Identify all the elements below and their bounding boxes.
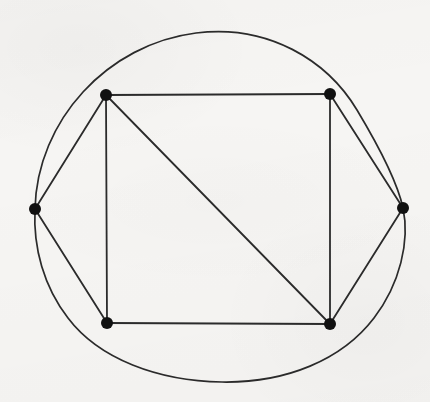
vertex-left (29, 203, 41, 215)
vertex-top-left (100, 89, 112, 101)
graph-figure (0, 0, 430, 402)
vertex-top-right (324, 88, 336, 100)
edge-diagonal-top-left-to-bottom-right (106, 95, 330, 324)
edge-top-right-to-right (330, 94, 403, 208)
edge-right-to-bottom-right (330, 208, 403, 324)
edge-bottom-left-to-top-left (106, 95, 107, 323)
vertex-bottom-right (324, 318, 336, 330)
vertex-group (29, 88, 409, 330)
edge-top-left-to-top-right (106, 94, 330, 95)
edge-left-to-bottom-left (35, 209, 107, 323)
figure-container (0, 0, 430, 402)
vertex-right (397, 202, 409, 214)
vertex-bottom-left (101, 317, 113, 329)
closed-curve (35, 32, 405, 382)
edge-bottom-right-to-bottom-left (107, 323, 330, 324)
